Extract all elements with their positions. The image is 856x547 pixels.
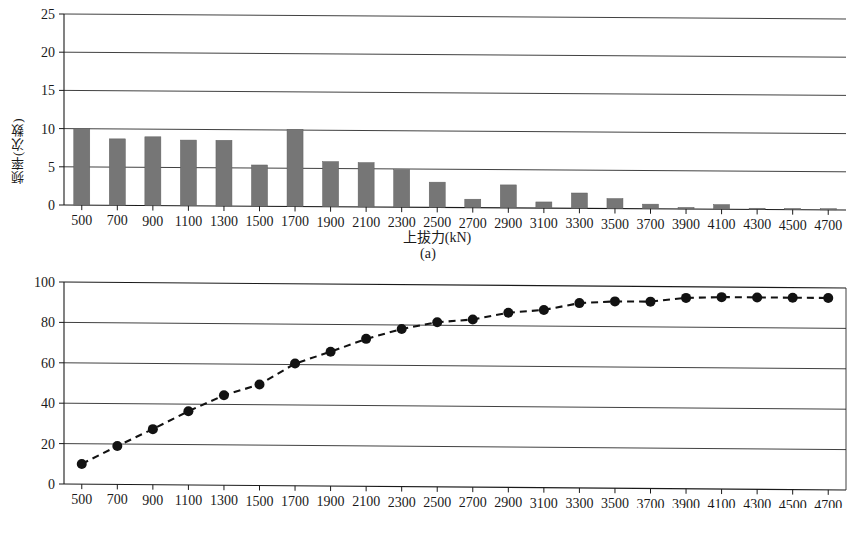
gridline-a-10 — [64, 129, 846, 134]
x-tick-label-b: 1500 — [246, 494, 274, 509]
y-tick-label-a: 15 — [41, 83, 55, 98]
data-point-3500 — [610, 296, 620, 306]
y-tick-label-b: 100 — [34, 275, 55, 290]
bar-1300 — [216, 140, 232, 206]
x-tick-label-b: 3900 — [672, 497, 700, 508]
x-tick-label-b: 3100 — [530, 496, 558, 508]
y-tick-label-a: 20 — [41, 45, 55, 60]
x-tick-label-b: 2100 — [352, 494, 380, 508]
y-tick-label-a: 5 — [48, 160, 55, 175]
bar-1900 — [323, 162, 339, 207]
gridline-b-60 — [64, 363, 846, 369]
chart-b-canvas: 0204060801005007009001100130015001700190… — [0, 268, 856, 508]
bar-4500 — [785, 208, 801, 209]
gridline-b-20 — [64, 444, 846, 450]
y-tick-label-a: 25 — [41, 7, 55, 22]
bar-4300 — [749, 208, 765, 209]
x-tick-label-b: 1100 — [175, 493, 202, 508]
data-point-1500 — [255, 380, 265, 390]
y-tick-label-b: 60 — [41, 356, 55, 371]
y-tick-label-b: 80 — [41, 315, 55, 330]
y-tick-label-a: 0 — [48, 198, 55, 213]
gridline-b-0 — [64, 484, 846, 490]
data-point-4100 — [717, 292, 727, 302]
data-point-2700 — [468, 314, 478, 324]
series-line-b — [82, 297, 828, 464]
bar-2700 — [465, 199, 481, 207]
x-tick-label-b: 2700 — [459, 495, 487, 508]
data-point-2100 — [361, 334, 371, 344]
data-point-3900 — [681, 293, 691, 303]
data-point-3700 — [646, 297, 656, 307]
bar-2900 — [500, 185, 516, 208]
bar-2500 — [429, 182, 445, 207]
y-tick-label-b: 0 — [48, 477, 55, 492]
bar-1100 — [180, 140, 196, 206]
data-point-3300 — [574, 298, 584, 308]
data-point-1300 — [219, 390, 229, 400]
x-tick-label-b: 2300 — [388, 495, 416, 508]
x-tick-label-b: 4500 — [779, 498, 807, 508]
bar-3300 — [571, 193, 587, 208]
gridline-b-100 — [64, 282, 846, 288]
data-point-4300 — [752, 292, 762, 302]
data-point-900 — [148, 424, 158, 434]
data-point-1100 — [183, 406, 193, 416]
x-tick-label-b: 4100 — [708, 497, 736, 508]
data-point-1900 — [326, 347, 336, 357]
figure-a-frequency-histogram: 频率(次数) 051015202550070090011001300150017… — [0, 0, 856, 272]
x-tick-label-b: 900 — [142, 493, 163, 508]
data-point-2500 — [432, 317, 442, 327]
gridline-b-80 — [64, 322, 846, 328]
data-point-500 — [77, 459, 87, 469]
gridline-b-40 — [64, 403, 846, 409]
bar-700 — [109, 139, 125, 205]
y-tick-label-a: 10 — [41, 122, 55, 137]
bar-2100 — [358, 163, 374, 207]
x-tick-label-b: 500 — [71, 492, 92, 507]
x-tick-label-b: 4300 — [743, 497, 771, 508]
figure-b-cumulative-percentage: 小于某上拔力所占百分比(%) 0204060801005007009001100… — [0, 268, 856, 547]
x-tick-label-b: 4700 — [814, 498, 842, 508]
x-tick-label-b: 3700 — [637, 497, 665, 509]
figure-caption-a: (a) — [0, 246, 856, 262]
data-point-3100 — [539, 305, 549, 315]
bar-3100 — [536, 202, 552, 208]
x-tick-label-b: 1700 — [281, 494, 309, 508]
y-tick-label-b: 20 — [41, 437, 55, 452]
data-point-4500 — [788, 293, 798, 303]
bar-2300 — [394, 170, 410, 207]
x-tick-label-b: 2500 — [423, 495, 451, 508]
bar-900 — [145, 137, 161, 206]
bar-3700 — [643, 204, 659, 209]
chart-a-canvas: 0510152025500700900110013001500170019002… — [0, 0, 856, 230]
y-axis-label-a: 频率(次数) — [8, 44, 27, 184]
bar-4100 — [714, 205, 730, 210]
gridline-a-25 — [64, 14, 846, 19]
bar-3500 — [607, 199, 623, 209]
x-axis-label-a: 上拔力(kN) — [0, 226, 856, 246]
x-tick-label-b: 1900 — [317, 494, 345, 508]
bar-500 — [74, 129, 90, 205]
data-point-1700 — [290, 359, 300, 369]
gridline-a-20 — [64, 52, 846, 57]
gridline-a-15 — [64, 90, 846, 95]
x-tick-label-b: 3500 — [601, 496, 629, 508]
bar-4700 — [820, 209, 836, 210]
bar-3900 — [678, 207, 694, 209]
x-tick-label-b: 700 — [107, 492, 128, 507]
data-point-2900 — [503, 308, 513, 318]
x-tick-label-b: 2900 — [494, 495, 522, 508]
data-point-4700 — [823, 293, 833, 303]
data-point-2300 — [397, 324, 407, 334]
x-tick-label-b: 3300 — [565, 496, 593, 508]
y-tick-label-b: 40 — [41, 396, 55, 411]
bar-1700 — [287, 129, 303, 206]
x-tick-label-b: 1300 — [210, 493, 238, 508]
data-point-700 — [112, 441, 122, 451]
bar-1500 — [252, 165, 268, 206]
